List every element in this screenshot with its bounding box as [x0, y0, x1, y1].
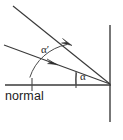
angle-label-alpha-prime: α′	[41, 43, 49, 55]
reflection-diagram: α′ α normal	[0, 0, 123, 140]
angle-label-alpha: α	[80, 70, 86, 82]
incident-ray-line	[13, 6, 110, 84]
optics-diagram-canvas: α′ α normal	[0, 0, 123, 140]
normal-axis-label: normal	[5, 89, 44, 103]
